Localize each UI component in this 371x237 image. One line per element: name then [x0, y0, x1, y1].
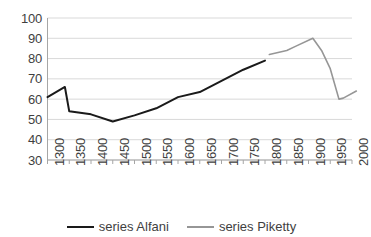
x-axis-tick-label: 1450 [118, 138, 131, 166]
x-axis-tick-label: 1500 [140, 138, 153, 166]
x-axis-tick-label: 1850 [292, 138, 305, 166]
legend-item[interactable]: series Piketty [187, 220, 296, 234]
x-axis-tick-label: 1600 [183, 138, 196, 166]
x-axis-tick-label: 1650 [205, 138, 218, 166]
x-axis-tick-label: 1550 [161, 138, 174, 166]
legend-label: series Piketty [219, 220, 296, 234]
x-axis-tick-label: 1950 [335, 138, 348, 166]
legend-line-swatch [67, 226, 94, 228]
legend-label: series Alfani [99, 220, 169, 234]
chart-legend: series Alfaniseries Piketty [0, 220, 363, 234]
x-axis-tick-label: 1750 [248, 138, 261, 166]
x-axis-tick-label: 2000 [357, 138, 370, 166]
legend-line-swatch [187, 226, 214, 228]
x-axis-tick-label: 1700 [227, 138, 240, 166]
x-axis-tick-label: 1800 [270, 138, 283, 166]
legend-item[interactable]: series Alfani [67, 220, 169, 234]
x-axis-tick-label: 1300 [53, 138, 66, 166]
x-axis-tick-label: 1900 [314, 138, 327, 166]
x-axis-tick-label: 1400 [96, 138, 109, 166]
x-axis-tick-label: 1350 [74, 138, 87, 166]
